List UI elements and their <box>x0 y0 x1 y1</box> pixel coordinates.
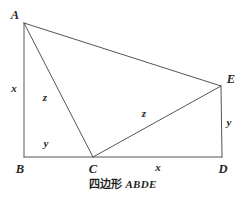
geometry-diagram <box>0 0 246 200</box>
vertex-label-D: D <box>218 163 227 176</box>
segment-A-C <box>24 23 93 157</box>
vertex-label-B: B <box>16 163 25 176</box>
length-label-AC: z <box>43 92 47 103</box>
length-label-BC: y <box>44 138 49 149</box>
segment-C-E <box>93 86 221 157</box>
vertex-label-E: E <box>227 73 236 86</box>
segment-D-E <box>221 86 222 157</box>
edge-group <box>24 23 222 157</box>
vertex-label-C: C <box>89 163 98 176</box>
caption-quadrilateral-name: ABDE <box>125 178 156 190</box>
geometry-figure: A B C D E x z y z x y 四边形ABDE <box>0 0 246 200</box>
length-label-CD: x <box>155 162 161 173</box>
length-label-DE: y <box>227 117 232 128</box>
segment-E-A <box>24 23 221 86</box>
vertex-label-A: A <box>11 9 20 22</box>
figure-caption: 四边形ABDE <box>0 178 246 191</box>
length-label-CE: z <box>142 108 146 119</box>
caption-chinese-text: 四边形 <box>89 178 122 191</box>
length-label-AB: x <box>11 83 17 94</box>
